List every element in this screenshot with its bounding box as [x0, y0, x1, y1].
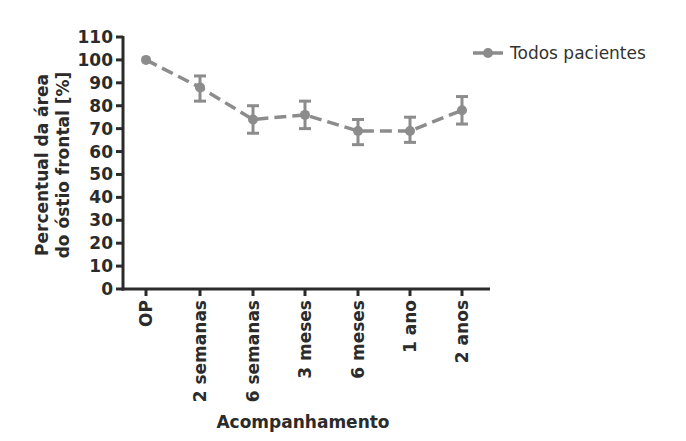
line-chart: Percentual da áreado óstio frontal [%] 0… [0, 0, 686, 441]
y-tick-label: 110 [78, 27, 114, 47]
y-tick-label: 60 [89, 142, 113, 162]
legend-label: Todos pacientes [509, 43, 646, 63]
y-axis-title: Percentual da áreado óstio frontal [%] [32, 72, 73, 259]
y-axis-title-line: Percentual da área [32, 74, 52, 256]
x-tick-label: 2 semanas [190, 300, 210, 402]
y-tick-label: 10 [89, 256, 113, 276]
x-axis: OP2 semanas6 semanas3 meses6 meses1 ano2… [122, 289, 491, 402]
y-tick-label: 70 [89, 119, 113, 139]
data-point [141, 55, 151, 65]
data-point [195, 82, 205, 92]
y-tick-label: 80 [89, 96, 113, 116]
data-series [141, 55, 468, 145]
x-tick-label: 3 meses [295, 300, 315, 379]
data-point [405, 126, 415, 136]
y-tick-label: 30 [89, 210, 113, 230]
x-axis-title: Acompanhamento [216, 412, 389, 432]
x-tick-label: 6 meses [348, 300, 368, 379]
y-tick-label: 90 [89, 73, 113, 93]
y-tick-label: 20 [89, 233, 113, 253]
y-tick-label: 50 [89, 164, 113, 184]
y-axis: 0102030405060708090100110 [78, 27, 124, 299]
data-point [300, 110, 310, 120]
legend: Todos pacientes [473, 43, 646, 63]
x-tick-label: OP [136, 300, 156, 327]
legend-marker-icon [483, 48, 493, 58]
data-point [457, 105, 467, 115]
y-tick-label: 0 [101, 279, 113, 299]
y-tick-label: 40 [89, 187, 113, 207]
x-tick-label: 6 semanas [243, 300, 263, 402]
data-point [248, 114, 258, 124]
data-point [353, 126, 363, 136]
y-tick-label: 100 [78, 50, 114, 70]
x-tick-label: 2 anos [452, 300, 472, 363]
x-tick-label: 1 ano [400, 300, 420, 353]
y-axis-title-line: do óstio frontal [%] [53, 72, 73, 259]
